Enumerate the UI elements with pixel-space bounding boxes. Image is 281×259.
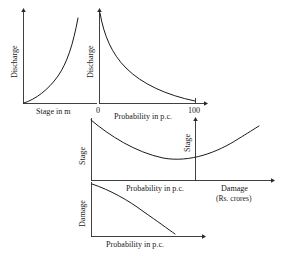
four-quadrant-flood-damage-diagram: Discharge Stage in m Discharge 0 100 Pro… (0, 0, 281, 259)
tick-label-zero: 0 (96, 106, 100, 115)
label-stage-left: Stage (78, 147, 87, 165)
tick-label-hundred: 100 (188, 106, 200, 115)
label-stage-right: Stage (183, 134, 192, 152)
curve-stage-damage (91, 120, 259, 159)
panel-discharge-probability (99, 11, 205, 104)
label-probability-top: Probability in p.c. (114, 112, 172, 121)
diagram-canvas: Discharge Stage in m Discharge 0 100 Pro… (0, 0, 281, 259)
label-probability-middle: Probability in p.c. (126, 184, 184, 193)
label-discharge-right: Discharge (86, 45, 95, 78)
curve-flow-duration (100, 13, 195, 101)
label-damage-axis: Damage (221, 184, 248, 193)
label-stage-in-m: Stage in m (36, 107, 71, 116)
label-probability-bottom: Probability in p.c. (106, 240, 164, 249)
curve-rating (24, 18, 78, 103)
panel-stage-damage (91, 118, 272, 181)
label-damage-units: (Rs. crores) (216, 194, 252, 203)
label-damage-y: Damage (78, 200, 87, 227)
label-discharge-left: Discharge (10, 45, 19, 78)
